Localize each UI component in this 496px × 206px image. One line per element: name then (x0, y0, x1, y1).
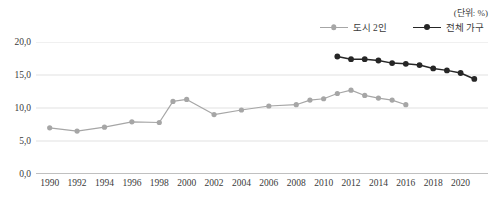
data-point[interactable] (74, 129, 79, 134)
data-point[interactable] (266, 103, 271, 108)
data-point[interactable] (335, 91, 340, 96)
plot-area (36, 42, 488, 174)
x-tick-label: 2000 (177, 178, 196, 188)
data-point[interactable] (417, 62, 423, 68)
x-tick-label: 2020 (451, 178, 470, 188)
data-point[interactable] (211, 112, 216, 117)
x-tick-label: 2012 (342, 178, 361, 188)
data-point[interactable] (471, 76, 477, 82)
x-tick-label: 1994 (95, 178, 114, 188)
data-point[interactable] (376, 58, 382, 64)
x-tick-label: 1992 (68, 178, 87, 188)
x-tick-label: 1990 (40, 178, 59, 188)
series-line-1 (337, 57, 474, 79)
plot-svg (36, 42, 488, 174)
data-point[interactable] (348, 56, 354, 62)
x-tick-label: 2004 (232, 178, 251, 188)
x-tick-label: 2008 (287, 178, 306, 188)
x-tick-label: 2018 (424, 178, 443, 188)
data-point[interactable] (389, 60, 395, 66)
data-point[interactable] (444, 67, 450, 73)
data-point[interactable] (170, 99, 175, 104)
x-tick-label: 2016 (396, 178, 415, 188)
data-point[interactable] (376, 96, 381, 101)
x-tick-label: 2006 (259, 178, 278, 188)
x-tick-label: 2002 (205, 178, 224, 188)
data-point[interactable] (362, 56, 368, 62)
data-point[interactable] (362, 93, 367, 98)
data-point[interactable] (458, 70, 464, 76)
data-point[interactable] (403, 61, 409, 67)
x-tick-label: 1998 (150, 178, 169, 188)
data-point[interactable] (239, 107, 244, 112)
data-point[interactable] (47, 125, 52, 130)
data-point[interactable] (184, 97, 189, 102)
data-point[interactable] (334, 54, 340, 60)
x-tick-label: 1996 (122, 178, 141, 188)
data-point[interactable] (403, 102, 408, 107)
data-point[interactable] (129, 119, 134, 124)
line-chart: (단위: %) 도시 2인 전체 가구 0,05,010,015,020,0 1… (0, 0, 496, 206)
data-point[interactable] (430, 66, 436, 72)
data-point[interactable] (390, 97, 395, 102)
data-point[interactable] (348, 88, 353, 93)
data-point[interactable] (294, 102, 299, 107)
data-point[interactable] (157, 120, 162, 125)
x-tick-label: 2014 (369, 178, 388, 188)
data-point[interactable] (321, 96, 326, 101)
data-point[interactable] (307, 97, 312, 102)
data-point[interactable] (102, 125, 107, 130)
x-tick-label: 2010 (314, 178, 333, 188)
